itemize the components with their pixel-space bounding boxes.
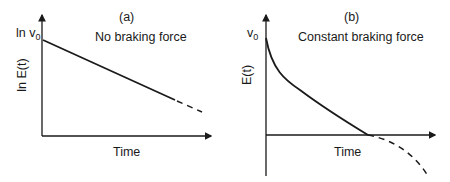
panel-b-y-intercept: v0 bbox=[247, 26, 258, 40]
panel-a-title: No braking force bbox=[95, 30, 187, 44]
panel-b-ylabel: E(t) bbox=[240, 65, 254, 85]
panel-b-dashed-curve bbox=[368, 135, 428, 176]
panel-a-y-intercept: ln v0 bbox=[16, 26, 40, 40]
panel-a-dashed-line bbox=[177, 101, 202, 112]
panel-a-line bbox=[43, 40, 175, 100]
panel-b-curve bbox=[266, 38, 368, 135]
panel-b-xlabel: Time bbox=[334, 145, 361, 159]
panel-b-tag: (b) bbox=[344, 10, 359, 24]
y-intercept-sub: 0 bbox=[35, 32, 40, 42]
panel-a-xlabel: Time bbox=[113, 145, 140, 159]
panel-b-title: Constant braking force bbox=[298, 30, 424, 44]
panel-a-ylabel: ln E(t) bbox=[15, 58, 29, 91]
chart-canvas bbox=[0, 0, 450, 182]
y-intercept-main: ln v bbox=[16, 26, 35, 40]
panel-a-tag: (a) bbox=[119, 10, 134, 24]
y-intercept-sub: 0 bbox=[253, 32, 258, 42]
